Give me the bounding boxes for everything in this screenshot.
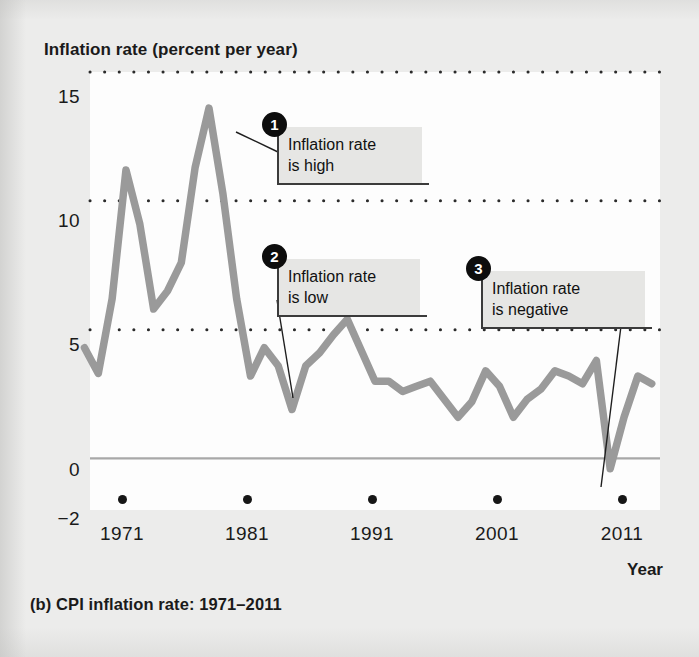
callout-badge-3: 3	[466, 256, 491, 281]
callout-box-3: Inflation rate is negative	[481, 271, 645, 329]
x-axis-title: Year	[627, 560, 663, 580]
figure-caption: (b) CPI inflation rate: 1971–2011	[30, 595, 282, 614]
callout-box-1: Inflation rate is high	[277, 127, 422, 185]
callout-underline-1	[277, 183, 429, 185]
figure-cpi-inflation-rate: Inflation rate (percent per year) 15 10 …	[0, 0, 699, 657]
callout-underline-3	[481, 327, 652, 329]
callout-badge-2: 2	[262, 244, 287, 269]
callout-underline-2	[277, 315, 427, 317]
callout-badge-1: 1	[262, 112, 287, 137]
callout-box-2: Inflation rate is low	[277, 259, 420, 317]
